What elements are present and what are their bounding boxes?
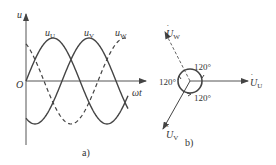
diagram-canvas: u O ωt uU uV uW a) 120° 120° 120° UU · U… [0, 0, 276, 165]
x-axis-label: ωt [132, 87, 142, 98]
label-uW: uW [115, 27, 127, 40]
caption-a: a) [82, 147, 90, 159]
arc-arrow-icon [187, 93, 191, 96]
dot-UW: · [167, 21, 170, 30]
waveform-panel: u O ωt uU uV uW a) [16, 9, 146, 159]
angle-label-top: 120° [194, 62, 212, 72]
three-phase-figure: u O ωt uU uV uW a) 120° 120° 120° UU · U… [0, 0, 276, 165]
y-axis-label: u [17, 9, 22, 20]
arc-arrow-icon [178, 76, 181, 80]
dot-UV: · [167, 122, 170, 131]
caption-b: b) [185, 137, 193, 149]
origin-label: O [16, 79, 23, 90]
phasor-panel: 120° 120° 120° UU · UV · UW · b) [159, 21, 262, 149]
dot-UU: · [251, 70, 254, 79]
arc-arrow-icon [200, 74, 204, 78]
label-uU: uU [45, 27, 55, 40]
angle-label-bottom: 120° [194, 93, 212, 103]
label-uV: uV [84, 27, 94, 40]
angle-label-left: 120° [159, 77, 177, 87]
